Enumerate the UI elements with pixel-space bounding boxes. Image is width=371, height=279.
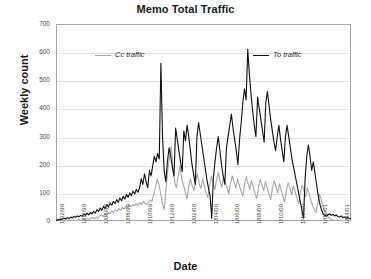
x-axis-tick-label: 1/02/01 [322, 204, 328, 224]
line-to-traffic [56, 49, 351, 220]
x-axis-tick-label: 1/02/00 [191, 204, 197, 224]
x-axis-tick-label: 1/06/00 [234, 204, 240, 224]
x-axis-tick-label: 1/04/00 [213, 204, 219, 224]
chart-title: Memo Total Traffic [0, 3, 371, 15]
x-axis-tick-label: 1/04/99 [81, 204, 87, 224]
x-axis-tick-label: 1/08/00 [256, 204, 262, 224]
y-axis-tick-label: 200 [6, 161, 50, 168]
series-lines [56, 24, 351, 221]
y-axis-tick-label: 500 [6, 76, 50, 83]
chart-container: Memo Total Traffic Weekly count Date 010… [0, 0, 371, 279]
x-axis-tick-label: 1/12/00 [300, 204, 306, 224]
legend-swatch-cc [95, 55, 111, 56]
y-axis-tick-label: 400 [6, 104, 50, 111]
legend-swatch-to [253, 55, 269, 56]
x-axis-label: Date [0, 260, 371, 272]
legend-label-cc: Cc traffic [115, 50, 145, 59]
x-axis-tick-label: 1/10/00 [278, 204, 284, 224]
y-axis-tick-label: 600 [6, 48, 50, 55]
y-axis-tick-label: 700 [6, 20, 50, 27]
y-axis-tick-label: 100 [6, 189, 50, 196]
x-axis-tick-label: 1/12/99 [169, 204, 175, 224]
x-axis-tick-label: 1/04/01 [344, 204, 350, 224]
x-axis-tick-label: 1/08/99 [125, 204, 131, 224]
y-axis-tick-label: 300 [6, 133, 50, 140]
x-axis-tick-label: 1/02/99 [59, 204, 65, 224]
x-axis-tick-label: 1/06/99 [103, 204, 109, 224]
y-axis-tick-label: 0 [6, 217, 50, 224]
legend-label-to: To traffic [273, 50, 301, 59]
x-axis-ticks: 1/02/991/04/991/06/991/08/991/10/991/12/… [56, 224, 351, 258]
x-axis-tick-label: 1/10/99 [147, 204, 153, 224]
